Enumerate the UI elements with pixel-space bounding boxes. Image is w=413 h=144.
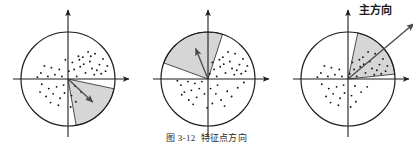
- sample-point: [86, 98, 88, 100]
- sample-point: [194, 82, 196, 84]
- sample-point: [59, 97, 61, 99]
- sample-point: [222, 56, 224, 58]
- sample-point: [183, 91, 185, 93]
- sample-point: [374, 53, 376, 55]
- sample-point: [240, 73, 242, 75]
- sample-point: [41, 83, 43, 85]
- sample-point: [380, 73, 382, 75]
- sample-point: [52, 93, 54, 95]
- sample-point: [105, 70, 107, 72]
- sample-point: [330, 102, 332, 104]
- sample-point: [341, 75, 343, 77]
- sample-point: [245, 70, 247, 72]
- sample-point: [220, 99, 222, 101]
- sample-point: [382, 58, 384, 60]
- sample-point: [50, 67, 52, 69]
- sample-point: [358, 59, 360, 61]
- sample-point: [68, 70, 70, 72]
- sample-point: [225, 72, 227, 74]
- sample-point: [201, 81, 203, 83]
- sample-point: [356, 75, 358, 77]
- sample-point: [224, 105, 226, 107]
- figure-caption: 图 3-12特征点方向: [0, 133, 413, 144]
- sample-point: [216, 75, 218, 77]
- panel-1: [13, 10, 129, 137]
- sample-point: [327, 75, 329, 77]
- sample-point: [320, 72, 322, 74]
- sample-point: [58, 68, 60, 70]
- sample-point: [351, 61, 353, 63]
- sample-point: [89, 61, 91, 63]
- sample-point: [211, 103, 213, 105]
- sample-point: [47, 75, 49, 77]
- sample-point: [181, 94, 183, 96]
- sample-point: [36, 76, 38, 78]
- sample-point: [233, 74, 235, 76]
- sample-point: [219, 66, 221, 68]
- sample-point: [96, 69, 98, 71]
- sample-point: [365, 72, 367, 74]
- sample-point: [78, 55, 80, 57]
- sample-point: [223, 63, 225, 65]
- feature-point-orientation-diagram: [0, 0, 413, 144]
- sample-point: [231, 96, 233, 98]
- sample-point: [328, 88, 330, 90]
- sample-point: [227, 51, 229, 53]
- sample-point: [367, 51, 369, 53]
- principal-direction-label: 主方向: [359, 1, 392, 17]
- sample-point: [57, 104, 59, 106]
- sample-point: [217, 84, 219, 86]
- sample-point: [40, 72, 42, 74]
- sample-point: [45, 96, 47, 98]
- sample-point: [343, 84, 345, 86]
- sample-point: [325, 96, 327, 98]
- sample-point: [48, 88, 50, 90]
- figure-caption-text: 特征点方向: [201, 133, 248, 143]
- orientation-wedge: [348, 33, 395, 79]
- sample-point: [187, 81, 189, 83]
- sample-point: [106, 65, 108, 67]
- sample-point: [366, 86, 368, 88]
- sample-point: [180, 84, 182, 86]
- sample-point: [373, 74, 375, 76]
- sample-point: [71, 95, 73, 97]
- sample-point: [209, 73, 211, 75]
- sample-point: [385, 70, 387, 72]
- sample-point: [190, 89, 192, 91]
- orientation-wedge: [164, 32, 223, 79]
- sample-point: [63, 84, 65, 86]
- sample-point: [73, 68, 75, 70]
- sample-point: [99, 64, 101, 66]
- sample-point: [353, 68, 355, 70]
- sample-point: [337, 104, 339, 106]
- sample-point: [79, 66, 81, 68]
- sample-point: [350, 106, 352, 108]
- sample-point: [215, 93, 217, 95]
- sample-point: [336, 86, 338, 88]
- sample-point: [321, 83, 323, 85]
- sample-point: [330, 67, 332, 69]
- sample-point: [334, 74, 336, 76]
- sample-point: [64, 92, 66, 94]
- sample-point: [39, 91, 41, 93]
- sample-point: [70, 106, 72, 108]
- figure-caption-number: 图 3-12: [166, 133, 196, 143]
- sample-point: [176, 80, 178, 82]
- sample-point: [242, 58, 244, 60]
- sample-point: [371, 68, 373, 70]
- sample-point: [218, 59, 220, 61]
- sample-point: [204, 93, 206, 95]
- sample-point: [206, 107, 208, 109]
- sample-point: [87, 51, 89, 53]
- sample-point: [338, 68, 340, 70]
- sample-point: [316, 76, 318, 78]
- sample-point: [56, 86, 58, 88]
- sample-point: [239, 64, 241, 66]
- sample-point: [76, 75, 78, 77]
- sample-point: [75, 101, 77, 103]
- sample-point: [91, 68, 93, 70]
- sample-point: [196, 96, 198, 98]
- sample-point: [332, 93, 334, 95]
- sample-point: [82, 56, 84, 58]
- sample-point: [213, 68, 215, 70]
